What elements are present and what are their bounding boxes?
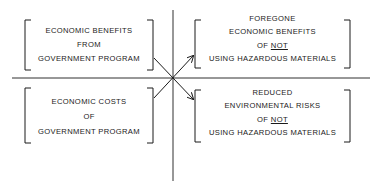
quadrant-text-line: GOVERNMENT PROGRAM: [38, 128, 140, 136]
quadrant-reduced-risks: REDUCED ENVIRONMENTAL RISKS OF NOT USING…: [197, 86, 348, 140]
arrow-costs-to-foregone: [154, 56, 193, 98]
quadrant-text-line: USING HAZARDOUS MATERIALS: [209, 129, 336, 137]
of-label: OF: [257, 115, 268, 124]
not-emphasis: NOT: [271, 115, 288, 124]
diagram-canvas: ECONOMIC BENEFITS FROM GOVERNMENT PROGRA…: [0, 0, 379, 191]
quadrant-foregone-benefits: FOREGONE ECONOMIC BENEFITS OF NOT USING …: [197, 12, 348, 66]
quadrant-text-line: GOVERNMENT PROGRAM: [38, 55, 140, 63]
quadrant-text-line: USING HAZARDOUS MATERIALS: [209, 55, 336, 63]
quadrant-text-line: OF NOT: [257, 116, 288, 124]
quadrant-text-line: OF: [83, 113, 94, 121]
quadrant-text-line: REDUCED: [253, 89, 293, 97]
quadrant-economic-costs: ECONOMIC COSTS OF GOVERNMENT PROGRAM: [27, 90, 151, 141]
quadrant-text-line: FROM: [77, 41, 101, 49]
quadrant-text-line: ECONOMIC BENEFITS: [46, 27, 133, 35]
quadrant-text-line: OF NOT: [257, 42, 288, 50]
quadrant-text-line: ECONOMIC BENEFITS: [229, 28, 316, 36]
quadrant-text-line: FOREGONE: [249, 15, 295, 23]
arrow-benefits-to-risks: [154, 58, 193, 99]
quadrant-text-line: ENVIRONMENTAL RISKS: [224, 102, 320, 110]
quadrant-economic-benefits: ECONOMIC BENEFITS FROM GOVERNMENT PROGRA…: [27, 22, 151, 68]
quadrant-text-line: ECONOMIC COSTS: [52, 98, 127, 106]
not-emphasis: NOT: [271, 41, 288, 50]
of-label: OF: [257, 41, 268, 50]
